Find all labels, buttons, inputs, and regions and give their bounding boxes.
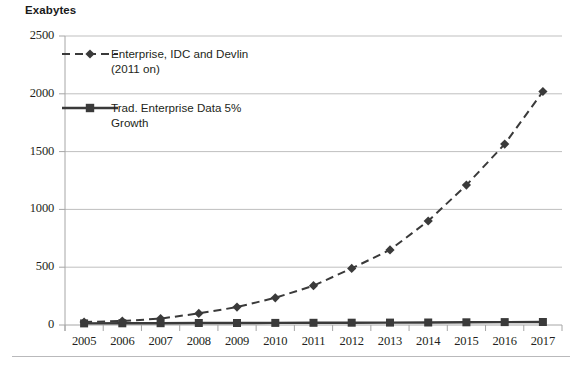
- data-point-marker: [385, 245, 394, 254]
- data-point-marker: [232, 303, 241, 312]
- data-point-marker: [194, 309, 203, 318]
- y-axis-tick-label: 1500: [6, 144, 54, 159]
- y-axis-tick-label: 2500: [6, 28, 54, 43]
- y-axis-tick-label: 2000: [6, 86, 54, 101]
- y-axis-tick-label: 500: [6, 259, 54, 274]
- data-point-marker: [462, 318, 470, 326]
- x-axis-tick-label: 2016: [493, 334, 517, 349]
- footer-divider: [12, 356, 570, 357]
- data-point-marker: [347, 264, 356, 273]
- x-axis-tick-label: 2008: [187, 334, 211, 349]
- data-point-marker: [80, 319, 88, 327]
- data-point-marker: [271, 319, 279, 327]
- data-point-marker: [157, 319, 165, 327]
- data-point-marker: [309, 281, 318, 290]
- legend-marker-diamond: [85, 49, 94, 58]
- chart-canvas: [0, 0, 583, 370]
- data-point-marker: [195, 319, 203, 327]
- legend-marker-square: [86, 104, 94, 112]
- x-axis-tick-label: 2010: [263, 334, 287, 349]
- data-point-marker: [501, 318, 509, 326]
- data-point-marker: [271, 293, 280, 302]
- x-axis-tick-label: 2012: [340, 334, 364, 349]
- x-axis-tick-label: 2005: [72, 334, 96, 349]
- y-axis-tick-label: 0: [6, 317, 54, 332]
- data-point-marker: [348, 319, 356, 327]
- data-point-marker: [539, 318, 547, 326]
- data-point-marker: [310, 319, 318, 327]
- legend-swatch: [62, 104, 118, 112]
- data-point-marker: [118, 319, 126, 327]
- y-axis-tick-label: 1000: [6, 201, 54, 216]
- legend-swatch: [62, 49, 118, 58]
- data-point-marker: [424, 319, 432, 327]
- x-axis-tick-label: 2011: [302, 334, 326, 349]
- x-axis-tick-label: 2006: [110, 334, 134, 349]
- x-axis-tick-label: 2009: [225, 334, 249, 349]
- x-axis-tick-label: 2013: [378, 334, 402, 349]
- x-axis-tick-label: 2017: [531, 334, 555, 349]
- x-axis-tick-label: 2015: [454, 334, 478, 349]
- plot-area: [0, 0, 583, 370]
- chart-figure: Exabytes Enterprise, IDC and Devlin (201…: [0, 0, 583, 370]
- legend-item-trad-enterprise-data: Trad. Enterprise Data 5% Growth: [111, 101, 241, 130]
- x-axis-tick-label: 2014: [416, 334, 440, 349]
- x-axis-tick-label: 2007: [148, 334, 172, 349]
- data-point-marker: [386, 319, 394, 327]
- legend-item-enterprise-idc-devlin: Enterprise, IDC and Devlin (2011 on): [111, 47, 248, 76]
- data-point-marker: [233, 319, 241, 327]
